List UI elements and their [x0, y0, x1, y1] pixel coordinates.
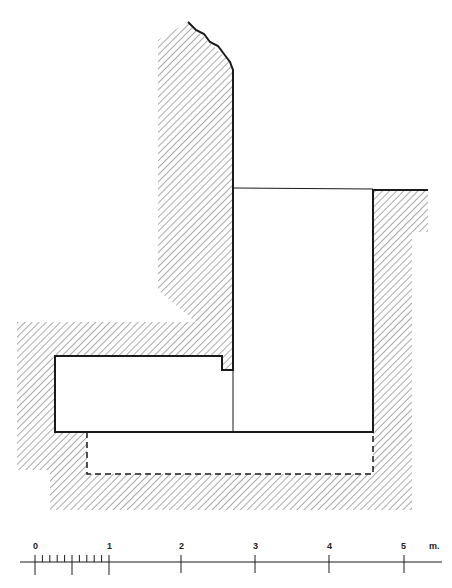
scale-label-5: 5 — [401, 541, 406, 551]
scale-label-0: 0 — [33, 541, 38, 551]
scale-bar — [20, 555, 442, 575]
section-drawing: 0 1 2 3 4 5 m. — [0, 0, 452, 588]
scale-label-4: 4 — [327, 541, 332, 551]
scale-unit: m. — [429, 541, 440, 551]
scale-label-1: 1 — [107, 541, 112, 551]
scale-label-3: 3 — [253, 541, 258, 551]
scale-label-2: 2 — [179, 541, 184, 551]
